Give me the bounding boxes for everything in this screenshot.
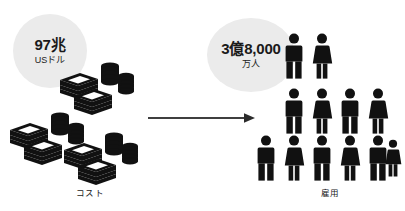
- person-male-icon: [283, 33, 305, 79]
- person-male-icon: [255, 135, 277, 181]
- jobs-value-bubble: 3億8,000 万人: [207, 18, 295, 92]
- jobs-unit-text: 万人: [242, 60, 260, 69]
- person-male-icon: [311, 135, 333, 181]
- person-female-icon: [339, 135, 361, 181]
- person-female-icon: [283, 135, 305, 181]
- person-female-icon: [311, 33, 333, 79]
- person-female-icon: [311, 88, 333, 134]
- jobs-value-text: 3億8,000: [221, 41, 280, 56]
- cost-value-text: 97兆: [34, 37, 65, 52]
- jobs-caption: 雇用: [295, 186, 365, 198]
- right-arrow-icon: [148, 108, 256, 128]
- person-male-icon: [339, 88, 361, 134]
- person-male-icon: [283, 88, 305, 134]
- infographic-canvas: 97兆 USドル: [0, 0, 405, 211]
- money-stack-icon: [62, 128, 140, 190]
- person-female-icon: [367, 88, 389, 134]
- cost-caption: コスト: [55, 186, 125, 198]
- person-female-icon: [384, 137, 402, 179]
